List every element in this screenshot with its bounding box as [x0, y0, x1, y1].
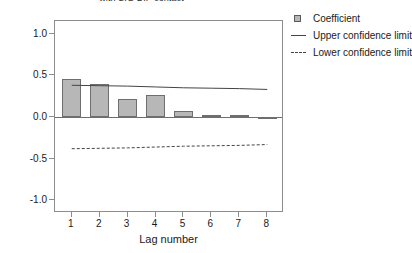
x-tick-label: 4: [152, 218, 158, 229]
legend-dashed-line-icon: [291, 47, 307, 58]
plot-area: [54, 20, 283, 212]
y-tick-label: 1.0: [0, 27, 47, 38]
x-tick-label: 6: [208, 218, 214, 229]
chart-title: with SIG DIF contact: [0, 0, 283, 3]
x-tick-mark: [210, 212, 211, 217]
x-tick-mark: [71, 212, 72, 217]
x-tick-mark: [127, 212, 128, 217]
x-tick-mark: [182, 212, 183, 217]
x-tick-label: 3: [124, 218, 130, 229]
x-tick-mark: [155, 212, 156, 217]
legend-item[interactable]: Upper confidence limit: [291, 28, 409, 43]
legend-item[interactable]: Coefficient: [291, 11, 409, 26]
legend-item[interactable]: Lower confidence limit: [291, 45, 409, 60]
legend-item-label: Upper confidence limit: [313, 30, 412, 41]
lower-confidence-limit-line: [72, 145, 267, 149]
x-tick-mark: [266, 212, 267, 217]
y-tick-label: 0.0: [0, 111, 47, 122]
x-tick-label: 8: [263, 218, 269, 229]
x-axis-title: Lag number: [54, 233, 283, 245]
x-tick-mark: [238, 212, 239, 217]
legend-item-label: Coefficient: [313, 13, 360, 24]
legend-solid-line-icon: [291, 30, 307, 41]
y-tick-label: -1.0: [0, 194, 47, 205]
y-tick-label: -0.5: [0, 152, 47, 163]
x-tick-label: 2: [96, 218, 102, 229]
y-tick-label: 0.5: [0, 69, 47, 80]
chart-legend: CoefficientUpper confidence limitLower c…: [291, 11, 409, 62]
x-tick-mark: [99, 212, 100, 217]
x-tick-label: 1: [68, 218, 74, 229]
x-tick-label: 5: [180, 218, 186, 229]
upper-confidence-limit-line: [72, 85, 267, 89]
x-tick-label: 7: [236, 218, 242, 229]
confidence-limit-lines: [55, 21, 284, 213]
legend-square-swatch-icon: [291, 13, 307, 24]
legend-item-label: Lower confidence limit: [313, 47, 412, 58]
plot-inner: [55, 21, 282, 211]
